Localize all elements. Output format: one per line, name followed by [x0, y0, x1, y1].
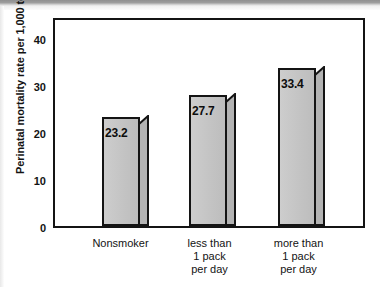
- bar-more-than-1-pack-value-label: 33.4: [281, 78, 304, 90]
- scan-artifact-band-soft: [0, 6, 380, 10]
- scan-artifact-left: [0, 6, 4, 287]
- y-tick-label-30: 30: [24, 82, 46, 92]
- y-tick-label-0: 0: [24, 223, 46, 233]
- bar-more-than-1-pack[interactable]: 33.4: [278, 66, 334, 226]
- x-category-line: 1 pack: [246, 250, 351, 263]
- bar-nonsmoker-value-label: 23.2: [105, 127, 128, 139]
- x-category-label-more-than-1-pack: more than 1 pack per day: [246, 237, 351, 276]
- x-category-line: per day: [246, 263, 351, 276]
- bar-less-than-1-pack[interactable]: 27.7: [189, 93, 245, 226]
- bar-more-than-1-pack-front-face: [278, 68, 316, 226]
- y-tick-label-20: 20: [24, 129, 46, 139]
- plot-frame: 23.2 27.7 33.4: [53, 18, 365, 228]
- bar-less-than-1-pack-value-label: 27.7: [192, 105, 215, 117]
- x-category-line: more than: [246, 237, 351, 250]
- chart-root: Perinatal mortality rate per 1,000 total…: [0, 0, 380, 287]
- y-tick-label-10: 10: [24, 176, 46, 186]
- bar-nonsmoker[interactable]: 23.2: [102, 115, 158, 226]
- y-tick-label-40: 40: [24, 35, 46, 45]
